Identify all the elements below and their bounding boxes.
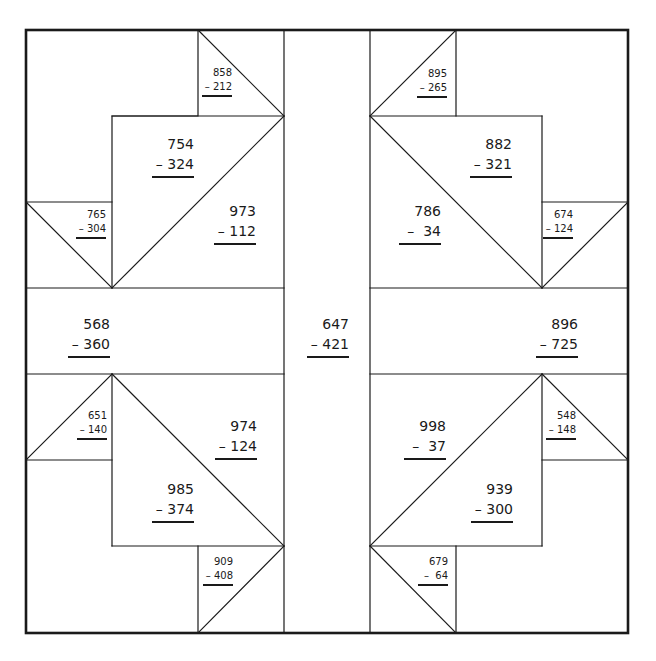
subtrahend: – 324 (148, 154, 194, 174)
subtraction-problem: 939– 300 (467, 479, 513, 523)
answer-line (68, 356, 110, 358)
minuend: 909 (201, 555, 233, 569)
subtrahend: – 37 (400, 436, 446, 456)
answer-line (202, 95, 232, 97)
answer-line (307, 356, 349, 358)
minuend: 974 (211, 416, 257, 436)
subtraction-problem: 882– 321 (466, 134, 512, 178)
subtraction-problem: 679– 64 (416, 555, 448, 586)
subtraction-problem: 998– 37 (400, 416, 446, 460)
subtrahend: – 421 (303, 334, 349, 354)
subtraction-problem: 973– 112 (210, 201, 256, 245)
answer-line (470, 176, 512, 178)
subtrahend: – 725 (532, 334, 578, 354)
subtraction-problem: 674– 124 (541, 208, 573, 239)
answer-line (543, 237, 573, 239)
minuend: 647 (303, 314, 349, 334)
subtraction-problem: 765– 304 (74, 208, 106, 239)
answer-line (152, 521, 194, 523)
minuend: 786 (395, 201, 441, 221)
minuend: 998 (400, 416, 446, 436)
minuend: 973 (210, 201, 256, 221)
subtraction-problem: 909– 408 (201, 555, 233, 586)
minuend: 882 (466, 134, 512, 154)
subtrahend: – 124 (211, 436, 257, 456)
tl-big-diagonal (112, 116, 284, 288)
subtrahend: – 321 (466, 154, 512, 174)
subtrahend: – 304 (74, 222, 106, 236)
minuend: 985 (148, 479, 194, 499)
subtraction-problem: 974– 124 (211, 416, 257, 460)
subtraction-problem: 896– 725 (532, 314, 578, 358)
subtrahend: – 34 (395, 221, 441, 241)
minuend: 651 (75, 409, 107, 423)
subtraction-quilt-worksheet: 858– 212754– 324765– 304973– 112895– 265… (0, 0, 656, 661)
subtrahend: – 300 (467, 499, 513, 519)
answer-line (471, 521, 513, 523)
minuend: 939 (467, 479, 513, 499)
answer-line (399, 243, 441, 245)
minuend: 674 (541, 208, 573, 222)
answer-line (77, 438, 107, 440)
minuend: 858 (200, 66, 232, 80)
subtraction-problem: 895– 265 (415, 67, 447, 98)
answer-line (417, 96, 447, 98)
minuend: 895 (415, 67, 447, 81)
answer-line (418, 584, 448, 586)
answer-line (536, 356, 578, 358)
minuend: 679 (416, 555, 448, 569)
minuend: 548 (544, 409, 576, 423)
subtrahend: – 265 (415, 81, 447, 95)
subtrahend: – 64 (416, 569, 448, 583)
subtrahend: – 148 (544, 423, 576, 437)
answer-line (215, 458, 257, 460)
subtraction-problem: 858– 212 (200, 66, 232, 97)
answer-line (546, 438, 576, 440)
subtraction-problem: 647– 421 (303, 314, 349, 358)
subtrahend: – 124 (541, 222, 573, 236)
subtraction-problem: 985– 374 (148, 479, 194, 523)
subtrahend: – 140 (75, 423, 107, 437)
subtrahend: – 212 (200, 80, 232, 94)
subtraction-problem: 754– 324 (148, 134, 194, 178)
subtraction-problem: 786– 34 (395, 201, 441, 245)
subtrahend: – 360 (64, 334, 110, 354)
minuend: 765 (74, 208, 106, 222)
answer-line (214, 243, 256, 245)
minuend: 896 (532, 314, 578, 334)
subtrahend: – 408 (201, 569, 233, 583)
subtraction-problem: 568– 360 (64, 314, 110, 358)
subtraction-problem: 548– 148 (544, 409, 576, 440)
minuend: 754 (148, 134, 194, 154)
subtraction-problem: 651– 140 (75, 409, 107, 440)
br-big-diagonal (370, 374, 542, 546)
answer-line (76, 237, 106, 239)
answer-line (404, 458, 446, 460)
bl-big-diagonal (112, 374, 284, 546)
answer-line (152, 176, 194, 178)
minuend: 568 (64, 314, 110, 334)
answer-line (203, 584, 233, 586)
subtrahend: – 112 (210, 221, 256, 241)
subtrahend: – 374 (148, 499, 194, 519)
